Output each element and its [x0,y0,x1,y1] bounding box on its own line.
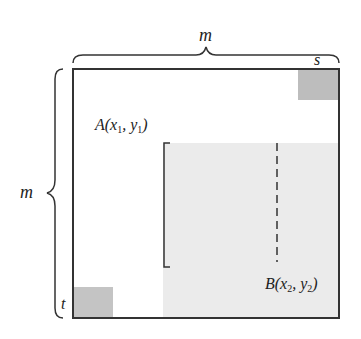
corner-square-t [74,287,113,317]
corner-label-t: t [61,296,65,312]
point-a-label: A(x1, y1) [95,117,148,135]
top-brace-label: m [199,26,212,44]
left-brace-label: m [20,183,33,201]
corner-label-s: s [314,52,320,68]
corner-square-s [298,70,338,100]
top-brace [73,47,339,63]
point-b-label: B(x2, y2) [265,276,318,294]
left-brace [47,69,63,318]
